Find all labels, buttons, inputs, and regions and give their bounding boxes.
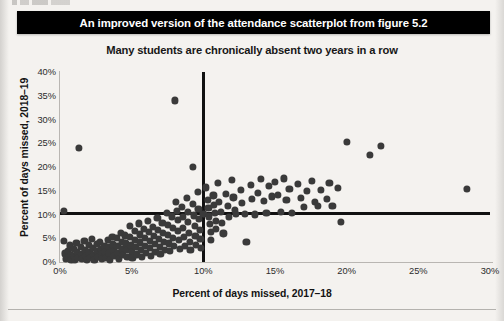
x-tick-label: 20% <box>337 266 356 276</box>
y-tick-label: 10% <box>37 210 56 220</box>
y-tick-label: 5% <box>43 233 56 243</box>
scatter-point <box>224 202 231 209</box>
x-tick-label: 25% <box>409 266 428 276</box>
scatterplot-plot-area <box>60 71 492 262</box>
scatter-point <box>248 196 255 203</box>
scatter-point <box>283 197 290 204</box>
scatter-point <box>237 186 244 193</box>
y-tick-label: 30% <box>37 115 56 125</box>
scatter-point <box>314 202 321 209</box>
scatter-point <box>337 218 344 225</box>
scatter-point <box>366 151 373 158</box>
scatter-point <box>329 202 336 209</box>
reference-line-vertical-10-percent <box>202 72 205 262</box>
figure-caption-text: An improved version of the attendance sc… <box>80 17 428 29</box>
x-tick-label: 10% <box>194 266 213 276</box>
scatter-point <box>303 187 310 194</box>
scatter-point <box>251 211 258 218</box>
cropped-page-text-artifact <box>12 0 70 5</box>
scatter-point <box>203 184 210 191</box>
scatter-point <box>75 144 82 151</box>
chart-title: Many students are chronically absent two… <box>0 44 504 56</box>
x-tick-label: 15% <box>266 266 285 276</box>
scatter-point <box>228 177 235 184</box>
x-tick-label: 0% <box>53 266 66 276</box>
scatter-point <box>257 176 264 183</box>
scatter-point <box>247 181 254 188</box>
y-tick-label: 40% <box>37 67 56 77</box>
y-tick-label: 35% <box>37 91 56 101</box>
x-tick-label: 30% <box>481 266 500 276</box>
scatter-point <box>230 194 237 201</box>
y-tick-label: 15% <box>37 186 56 196</box>
scatter-point <box>280 175 287 182</box>
x-axis-line <box>59 262 493 263</box>
scatter-point <box>326 180 333 187</box>
scatter-point <box>214 180 221 187</box>
scatter-point <box>216 199 223 206</box>
scatter-point <box>286 185 293 192</box>
x-axis-title: Percent of days missed, 2017–18 <box>0 288 504 299</box>
y-axis-line <box>59 71 60 263</box>
scatter-point <box>297 195 304 202</box>
scatter-point <box>218 219 225 226</box>
scatter-point <box>233 210 240 217</box>
scatter-point <box>208 236 215 243</box>
scatter-point <box>210 192 217 199</box>
scatter-point <box>213 226 220 233</box>
scatter-point <box>194 188 201 195</box>
scatter-point <box>323 196 330 203</box>
scatter-point <box>220 230 227 237</box>
page-bottom-rule <box>8 309 496 310</box>
scatter-point <box>260 198 267 205</box>
y-tick-label: 25% <box>37 138 56 148</box>
scatter-point <box>317 186 324 193</box>
scatter-point <box>294 180 301 187</box>
scatter-point <box>300 203 307 210</box>
scatter-point <box>226 214 233 221</box>
scatter-point <box>263 209 270 216</box>
scatter-point <box>223 190 230 197</box>
reference-line-horizontal-10-percent <box>60 212 490 215</box>
scatter-point <box>463 185 470 192</box>
scatter-point <box>243 238 250 245</box>
scatter-point <box>309 178 316 185</box>
scatter-point <box>238 199 245 206</box>
x-axis-tick-labels: 0%5%10%15%20%25%30% <box>60 266 492 280</box>
figure-caption-banner: An improved version of the attendance sc… <box>17 11 490 34</box>
scatter-point <box>254 189 261 196</box>
scatter-point <box>289 209 296 216</box>
scatter-point <box>334 184 341 191</box>
scatter-point <box>343 139 350 146</box>
x-tick-label: 5% <box>125 266 138 276</box>
y-tick-label: 20% <box>37 162 56 172</box>
scatter-point <box>271 179 278 186</box>
scatter-point <box>189 163 196 170</box>
scatter-point <box>171 97 178 104</box>
scatter-point <box>241 210 248 217</box>
scatter-point <box>377 142 384 149</box>
scatter-point <box>183 195 190 202</box>
scatter-point <box>274 191 281 198</box>
y-axis-title: Percent of days missed, 2018–19 <box>19 58 30 258</box>
